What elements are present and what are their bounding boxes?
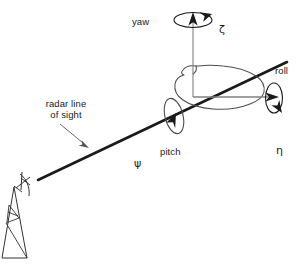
diagram-canvas: [0, 0, 301, 267]
eta-label: η: [276, 145, 283, 156]
yaw-axis-arrow: [188, 12, 197, 97]
roll-label: roll: [275, 65, 288, 76]
pitch-label: pitch: [160, 146, 181, 157]
target-aircraft-outline: [175, 65, 264, 109]
radar-antenna-tower: [2, 187, 27, 258]
radar-line-of-sight-label: radar line of sight: [30, 98, 102, 120]
radar-antenna-dish: [14, 172, 30, 196]
pitch-rotation-ellipse: [161, 96, 187, 135]
radar-line-of-sight-callout-arrow: [60, 124, 89, 148]
yaw-label: yaw: [132, 16, 149, 27]
zeta-label: ζ: [219, 24, 225, 35]
radar-line-of-sight: [38, 62, 287, 180]
radar-line-of-sight-label-line1: radar line: [30, 98, 102, 109]
psi-label: ψ: [134, 158, 141, 169]
radar-target-motion-diagram: yaw ζ roll η pitch ψ radar line of sight: [0, 0, 301, 267]
radar-line-of-sight-label-line2: of sight: [30, 109, 102, 120]
